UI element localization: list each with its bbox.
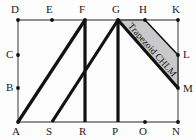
vertex-label-c: C	[6, 48, 13, 60]
vertex-label-n: N	[172, 125, 180, 137]
vertex-label-k: K	[172, 3, 180, 15]
vertex-dot-b	[16, 86, 20, 90]
vertex-dot-g	[116, 18, 120, 22]
vertex-label-g: G	[112, 3, 120, 15]
geometry-figure-root: DEFGHKCLBMASRPON Trapezoid CHLM	[0, 0, 196, 140]
vertex-dot-m	[176, 86, 180, 90]
vertex-dot-d	[16, 18, 20, 22]
vertex-label-p: P	[112, 125, 118, 137]
vertex-label-h: H	[139, 3, 147, 15]
vertex-label-s: S	[46, 125, 52, 137]
vertex-dot-h	[143, 18, 147, 22]
vertex-label-d: D	[11, 3, 19, 15]
vertex-dot-e	[50, 18, 54, 22]
vertex-dot-c	[16, 53, 20, 57]
vertex-label-f: F	[79, 3, 85, 15]
vertex-label-o: O	[139, 125, 147, 137]
vertex-dot-l	[176, 53, 180, 57]
vertex-label-l: L	[183, 48, 190, 60]
geometry-figure-svg: DEFGHKCLBMASRPON Trapezoid CHLM	[0, 0, 196, 140]
vertex-label-b: B	[6, 81, 13, 93]
vertex-dot-k	[176, 18, 180, 22]
vertex-dot-o	[143, 120, 147, 124]
vertex-dot-a	[16, 120, 20, 124]
vertex-dot-f	[83, 18, 87, 22]
vertex-label-m: M	[183, 82, 193, 94]
vertex-label-e: E	[46, 3, 53, 15]
vertex-label-r: R	[79, 125, 87, 137]
vertex-dot-n	[176, 120, 180, 124]
vertex-label-a: A	[12, 125, 20, 137]
